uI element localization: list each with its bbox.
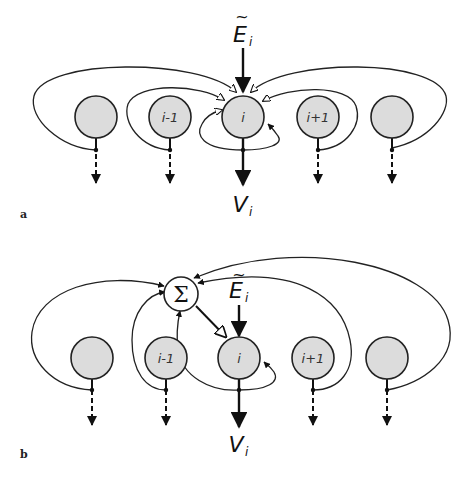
junction-dot (94, 148, 98, 152)
sigma-symbol: Σ (173, 282, 189, 307)
input-label: E (233, 22, 247, 47)
node-label: i-1 (158, 351, 175, 366)
junction-dot (390, 148, 394, 152)
panel-b: i-1 i i+1 Σ ~ E i V i b (20, 257, 450, 461)
network-diagram: i-1 i i+1 ~ E i V i a (0, 0, 470, 481)
input-subscript: i (249, 35, 253, 49)
sum-to-node-edge (196, 306, 226, 337)
neuron-node-b-1 (71, 337, 113, 379)
edge-a-outer-left (33, 67, 236, 150)
neuron-node-a-5 (371, 96, 413, 138)
panel-a: i-1 i i+1 ~ E i V i a (20, 7, 447, 221)
junction-dot (316, 148, 320, 152)
junction-dot (237, 388, 241, 392)
junction-dot (168, 148, 172, 152)
junction-dot (385, 388, 389, 392)
panel-tag-b: b (20, 448, 28, 461)
input-subscript: i (245, 291, 249, 305)
junction-dot (241, 148, 245, 152)
node-label: i (237, 351, 241, 366)
panel-tag-a: a (20, 208, 27, 221)
node-label: i+1 (307, 110, 330, 125)
output-subscript: i (249, 205, 253, 219)
node-label: i-1 (162, 110, 179, 125)
input-label: E (229, 278, 243, 303)
junction-dot (164, 388, 168, 392)
junction-dot (311, 388, 315, 392)
output-subscript: i (245, 445, 249, 459)
neuron-node-a-1 (75, 96, 117, 138)
neuron-node-b-5 (366, 337, 408, 379)
junction-dot (90, 388, 94, 392)
node-label: i+1 (302, 351, 325, 366)
node-label: i (241, 110, 245, 125)
output-label: V (228, 432, 245, 457)
output-label: V (232, 192, 249, 217)
